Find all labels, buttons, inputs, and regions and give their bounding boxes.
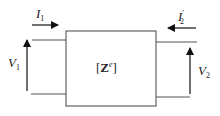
label-i1: I1 <box>35 6 44 23</box>
two-port-diagram: I1 I′2 V1 V2 [Ze] <box>0 0 220 116</box>
label-v2: V2 <box>198 63 210 80</box>
block-label-ze: [Ze] <box>96 60 117 75</box>
label-v1: V1 <box>8 55 20 72</box>
label-i2-prime: I′2 <box>177 9 184 26</box>
